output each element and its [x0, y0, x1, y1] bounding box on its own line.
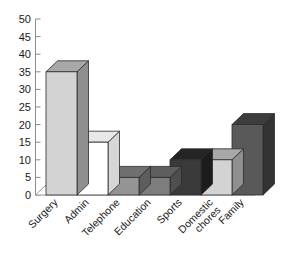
- y-tick-label: 45: [19, 31, 31, 43]
- y-tick-label: 15: [19, 136, 31, 148]
- x-tick-label: Admin: [61, 196, 91, 226]
- bar-series: [46, 61, 275, 195]
- x-tick-label: Sports: [154, 196, 184, 226]
- x-tick-label-group: Sports: [154, 196, 184, 226]
- x-axis-category-labels: SurgeryAdminTelephoneEducationSportsDome…: [25, 195, 246, 243]
- y-tick-label: 50: [19, 13, 31, 25]
- y-tick-label: 35: [19, 66, 31, 78]
- y-tick-label: 25: [19, 101, 31, 113]
- y-tick-label: 30: [19, 83, 31, 95]
- bar-chart: 05101520253035404550 SurgeryAdminTelepho…: [0, 0, 286, 265]
- y-tick-label: 40: [19, 48, 31, 60]
- y-axis-tick-labels: 05101520253035404550: [19, 13, 31, 201]
- y-tick-label: 10: [19, 154, 31, 166]
- bar-side-face: [77, 61, 89, 195]
- y-axis-tick-marks: [36, 19, 41, 195]
- bar-front-face: [46, 72, 77, 195]
- bar: [46, 61, 89, 195]
- y-tick-label: 5: [25, 171, 31, 183]
- y-tick-label: 20: [19, 119, 31, 131]
- chart-canvas: 05101520253035404550 SurgeryAdminTelepho…: [0, 0, 286, 265]
- bar-side-face: [263, 114, 275, 195]
- y-tick-label: 0: [25, 189, 31, 201]
- x-tick-label-group: Admin: [61, 196, 91, 226]
- x-tick-label-group: Domesticchores: [175, 196, 222, 243]
